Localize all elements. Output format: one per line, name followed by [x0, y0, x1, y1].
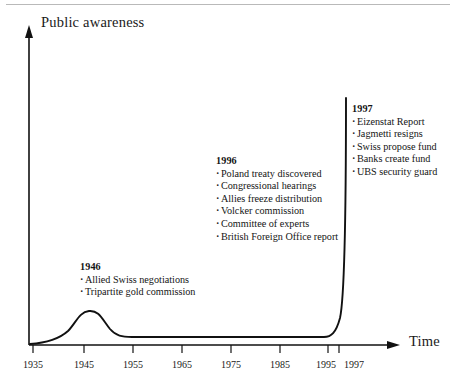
x-tick-label-1935: 1935 — [16, 359, 50, 370]
x-tick-label-1945: 1945 — [67, 359, 101, 370]
annotation-item: Tripartite gold commission — [80, 286, 195, 299]
x-tick-label-1997: 1997 — [337, 359, 371, 370]
y-axis-label: Public awareness — [41, 14, 144, 31]
annotation-1946-year: 1946 — [80, 261, 195, 274]
annotation-item: Swiss propose fund — [352, 141, 437, 154]
annotation-1946: 1946 Allied Swiss negotiations Tripartit… — [80, 261, 195, 299]
annotation-item: Jagmetti resigns — [352, 128, 437, 141]
x-tick-label-1955: 1955 — [116, 359, 150, 370]
annotation-1997-list: Eizenstat Report Jagmetti resigns Swiss … — [352, 116, 437, 179]
x-tick-label-1965: 1965 — [165, 359, 199, 370]
annotation-1997-year: 1997 — [352, 103, 437, 116]
annotation-1997: 1997 Eizenstat Report Jagmetti resigns S… — [352, 103, 437, 179]
x-axis — [29, 341, 400, 349]
x-tick-label-1985: 1985 — [263, 359, 297, 370]
annotation-item: Allies freeze distribution — [216, 193, 338, 206]
x-axis-label: Time — [409, 333, 440, 350]
annotation-item: Poland treaty discovered — [216, 168, 338, 181]
annotation-item: Eizenstat Report — [352, 116, 437, 129]
annotation-item: Congressional hearings — [216, 180, 338, 193]
x-tick-label-1975: 1975 — [214, 359, 248, 370]
x-axis-ticks — [33, 345, 339, 353]
annotation-item: British Foreign Office report — [216, 231, 338, 244]
annotation-item: UBS security guard — [352, 166, 437, 179]
annotation-item: Allied Swiss negotiations — [80, 274, 195, 287]
annotation-1996: 1996 Poland treaty discovered Congressio… — [216, 155, 338, 243]
annotation-item: Banks create fund — [352, 153, 437, 166]
annotation-item: Committee of experts — [216, 218, 338, 231]
annotation-1996-year: 1996 — [216, 155, 338, 168]
annotation-1946-list: Allied Swiss negotiations Tripartite gol… — [80, 274, 195, 299]
y-axis — [25, 25, 33, 345]
annotation-item: Volcker commission — [216, 205, 338, 218]
annotation-1996-list: Poland treaty discovered Congressional h… — [216, 168, 338, 244]
chart-page: Public awareness Time 1935 1945 1955 196… — [0, 0, 454, 388]
